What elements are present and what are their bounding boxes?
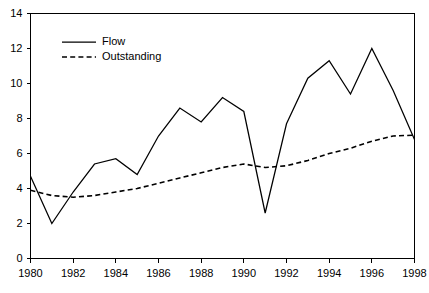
x-tick-label: 1980 [18, 267, 42, 279]
chart-container: 02468101214 1980198219841986198819901992… [0, 0, 429, 293]
x-tick-label: 1996 [360, 267, 384, 279]
chart-legend: FlowOutstanding [62, 35, 161, 62]
y-tick-label: 14 [10, 7, 22, 19]
x-tick-label: 1986 [146, 267, 170, 279]
y-tick-label: 6 [16, 147, 22, 159]
x-tick-label: 1982 [61, 267, 85, 279]
x-tick-label: 1994 [317, 267, 341, 279]
y-tick-label: 2 [16, 217, 22, 229]
series-line-flow [31, 49, 415, 224]
legend-label-outstanding: Outstanding [102, 50, 161, 62]
x-tick-label: 1988 [189, 267, 213, 279]
x-axis-ticks: 1980198219841986198819901992199419961998 [18, 259, 426, 279]
legend-label-flow: Flow [102, 35, 125, 47]
y-tick-label: 8 [16, 112, 22, 124]
line-chart: 02468101214 1980198219841986198819901992… [0, 0, 429, 293]
y-tick-label: 4 [16, 182, 22, 194]
y-tick-label: 10 [10, 77, 22, 89]
x-tick-label: 1984 [104, 267, 128, 279]
y-tick-label: 12 [10, 42, 22, 54]
x-tick-label: 1990 [232, 267, 256, 279]
x-tick-label: 1998 [402, 267, 426, 279]
y-tick-label: 0 [16, 252, 22, 264]
x-tick-label: 1992 [274, 267, 298, 279]
y-axis-ticks: 02468101214 [10, 7, 30, 264]
series-line-outstanding [31, 135, 415, 197]
